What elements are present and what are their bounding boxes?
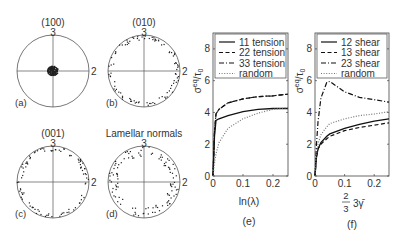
x-tick-label: 0 (210, 178, 216, 189)
y-axis-label: σeq/τ0 (293, 69, 306, 94)
series-33-tension (213, 94, 288, 176)
series-random (315, 112, 389, 176)
axis-label-2: 2 (91, 66, 97, 77)
figure: (100)32(a)(010)32(b)(001)32(c)Lamellar n… (0, 0, 405, 243)
legend-label: 11 tension (239, 37, 284, 48)
panel-label: (a) (15, 97, 27, 108)
y-tick-label: 4 (204, 107, 210, 118)
legend-label: 13 shear (341, 47, 381, 58)
pole-figure-a: (100)32(a) (15, 17, 97, 108)
pole-figure-b: (010)32(b) (106, 17, 188, 108)
x-tick-label: 0.1 (236, 178, 250, 189)
x-axis-label: ln(λ) (239, 195, 259, 207)
legend-label: 12 shear (341, 37, 381, 48)
legend: 11 tension22 tension33 tensionrandom (215, 34, 286, 79)
y-tick-label: 2 (306, 139, 312, 150)
panel-label: (e) (243, 215, 256, 227)
y-tick-label: 4 (306, 107, 312, 118)
legend-label: 33 tension (239, 58, 285, 69)
x-axis-label-gamma: 3γ̄ (353, 198, 366, 209)
pole-points (47, 66, 59, 76)
y-tick-label: 6 (306, 75, 312, 86)
series-13-shear (315, 123, 389, 176)
panel-label: (c) (15, 208, 26, 219)
chart-f-shear: 0246800.10.2σeq/τ0233γ̄(f)12 shear13 she… (293, 33, 389, 230)
axis-label-3: 3 (50, 138, 56, 149)
axis-label-3: 3 (50, 27, 56, 38)
series-random (213, 108, 288, 176)
legend-label: 22 tension (239, 47, 285, 58)
y-tick-label: 8 (306, 43, 312, 54)
chart-e-tension: 0246800.10.2σeq/τ0ln(λ)(e)11 tension22 t… (191, 33, 288, 227)
pole-figures: (100)32(a)(010)32(b)(001)32(c)Lamellar n… (15, 17, 188, 219)
axis-label-2: 2 (182, 66, 188, 77)
x-tick-label: 0.1 (338, 178, 352, 189)
panel-label: (d) (106, 208, 118, 219)
y-tick-label: 8 (204, 43, 210, 54)
y-axis-label: σeq/τ0 (191, 69, 204, 94)
x-tick-label: 0.2 (367, 178, 381, 189)
legend-label: 23 shear (341, 58, 381, 69)
axis-label-2: 2 (182, 177, 188, 188)
legend-label: random (341, 68, 375, 79)
axis-label-2: 2 (91, 177, 97, 188)
axis-label-3: 3 (141, 138, 147, 149)
panel-label: (b) (106, 97, 118, 108)
legend-label: random (239, 68, 273, 79)
series-12-shear (315, 119, 389, 176)
y-tick-label: 6 (204, 75, 210, 86)
x-tick-label: 0 (312, 178, 318, 189)
axis-label-3: 3 (141, 27, 147, 38)
x-tick-label: 0.2 (266, 178, 280, 189)
panel-label: (f) (347, 218, 357, 230)
x-axis-label-numerator: 2 (343, 190, 348, 201)
series-22-tension (213, 94, 288, 176)
y-tick-label: 2 (204, 139, 210, 150)
pole-figure-c: (001)32(c) (15, 128, 97, 219)
x-axis-label-denominator: 3 (343, 203, 348, 214)
pole-figure-d: Lamellar normals32(d) (106, 128, 188, 219)
legend: 12 shear13 shear23 shearrandom (317, 34, 387, 79)
series-11-tension (213, 109, 288, 177)
